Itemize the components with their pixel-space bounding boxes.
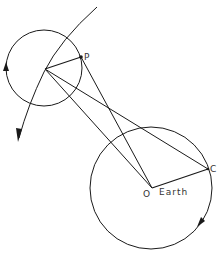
label-O: O — [143, 189, 150, 199]
line-P-O — [81, 57, 152, 188]
orbit-arrow-icon — [16, 128, 22, 142]
moon-circle — [6, 30, 82, 106]
point-P — [79, 55, 83, 59]
moon-orbit-arc — [19, 7, 97, 138]
label-earth: Earth — [159, 187, 188, 197]
moon-circle-arrow-icon — [3, 62, 9, 71]
line-center-P — [45, 57, 81, 69]
line-O-C — [152, 169, 208, 188]
diagram-canvas: P C O Earth — [0, 0, 219, 253]
point-C — [207, 168, 210, 171]
label-C: C — [210, 164, 216, 174]
earth-circle — [90, 127, 212, 249]
label-P: P — [84, 52, 90, 62]
line-center-C — [45, 69, 208, 169]
